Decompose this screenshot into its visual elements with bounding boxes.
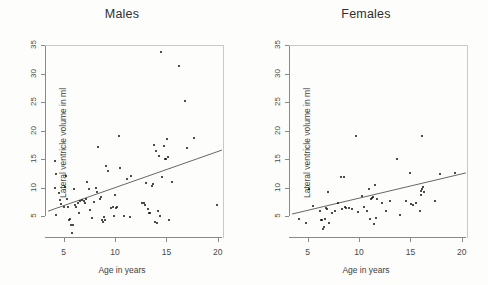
figure-panels: Males Lateral ventricle volume in ml Age…	[0, 0, 488, 285]
data-point	[93, 201, 95, 203]
data-point	[100, 196, 102, 198]
x-tick-males-10	[115, 238, 116, 242]
data-point	[348, 207, 350, 209]
data-point	[130, 175, 132, 177]
data-point	[114, 194, 116, 196]
x-tick-label-males-20: 20	[213, 247, 222, 257]
data-point	[153, 144, 155, 146]
data-point	[373, 223, 375, 225]
data-point	[77, 202, 79, 204]
y-tick-males-35	[41, 45, 45, 46]
data-point	[104, 219, 106, 221]
data-point	[159, 215, 161, 217]
y-tick-females-35	[285, 45, 289, 46]
y-tick-label-females-20: 20	[273, 122, 282, 138]
data-point	[97, 146, 99, 148]
y-tick-label-males-20: 20	[29, 122, 38, 138]
data-point	[156, 222, 158, 224]
y-tick-label-males-15: 15	[29, 151, 38, 167]
data-point	[73, 188, 75, 190]
data-point	[78, 212, 80, 214]
y-tick-males-5	[41, 216, 45, 217]
x-axis-title-females: Age in years	[244, 265, 488, 275]
y-tick-label-females-15: 15	[273, 151, 282, 167]
data-point	[389, 200, 391, 202]
data-point	[126, 178, 128, 180]
data-point	[434, 200, 436, 202]
plot-frame-top-males	[45, 45, 224, 46]
panel-females: Females Lateral ventricle volume in ml A…	[244, 0, 488, 285]
data-point	[129, 216, 131, 218]
data-point	[396, 158, 398, 160]
data-point	[412, 204, 414, 206]
plot-area-females: 51015202530355101520	[289, 45, 468, 238]
y-tick-females-25	[285, 102, 289, 103]
data-point	[369, 218, 371, 220]
data-point	[65, 175, 67, 177]
data-point	[63, 206, 65, 208]
data-point	[419, 210, 421, 212]
x-tick-label-females-15: 15	[406, 247, 415, 257]
panel-males: Males Lateral ventricle volume in ml Age…	[0, 0, 244, 285]
data-point	[178, 65, 180, 67]
data-point	[168, 219, 170, 221]
data-point	[84, 202, 86, 204]
x-tick-females-10	[359, 238, 360, 242]
y-tick-label-males-5: 5	[29, 208, 38, 224]
data-point	[144, 204, 146, 206]
y-tick-label-females-35: 35	[273, 37, 282, 53]
data-point	[409, 172, 411, 174]
data-point	[105, 165, 107, 167]
data-point	[60, 203, 62, 205]
data-point	[381, 202, 383, 204]
data-point	[343, 176, 345, 178]
data-point	[331, 212, 333, 214]
y-tick-label-males-30: 30	[29, 65, 38, 81]
data-point	[112, 206, 114, 208]
y-axis-line-females	[289, 45, 290, 216]
y-tick-label-females-25: 25	[273, 94, 282, 110]
plot-area-males: 51015202530355101520	[45, 45, 224, 238]
data-point	[167, 156, 169, 158]
data-point	[96, 191, 98, 193]
x-tick-females-20	[462, 238, 463, 242]
data-point	[334, 210, 336, 212]
data-point	[99, 198, 101, 200]
data-point	[405, 200, 407, 202]
data-point	[123, 215, 125, 217]
data-point	[72, 224, 74, 226]
data-point	[327, 191, 329, 193]
data-point	[421, 135, 423, 137]
data-point	[107, 170, 109, 172]
panel-title-females: Females	[244, 7, 488, 21]
data-point	[145, 182, 147, 184]
y-tick-label-females-10: 10	[273, 179, 282, 195]
data-point	[149, 212, 151, 214]
data-point	[193, 137, 195, 139]
data-point	[366, 210, 368, 212]
y-tick-females-10	[285, 188, 289, 189]
data-point	[55, 214, 57, 216]
data-point	[66, 198, 68, 200]
data-point	[376, 198, 378, 200]
x-tick-males-15	[166, 238, 167, 242]
data-point	[184, 100, 186, 102]
data-point	[375, 217, 377, 219]
data-point	[385, 210, 387, 212]
data-point	[374, 184, 376, 186]
data-point	[399, 214, 401, 216]
plot-frame-top-females	[289, 45, 468, 46]
data-point	[71, 232, 73, 234]
data-point	[147, 208, 149, 210]
y-tick-females-30	[285, 74, 289, 75]
regression-line-females	[289, 45, 468, 238]
data-point	[166, 138, 168, 140]
data-point	[161, 176, 163, 178]
data-point	[54, 187, 56, 189]
x-tick-label-males-5: 5	[61, 247, 66, 257]
data-point	[91, 217, 93, 219]
x-axis-line-females	[289, 237, 466, 238]
data-point	[86, 181, 88, 183]
data-point	[308, 188, 310, 190]
data-point	[160, 51, 162, 53]
